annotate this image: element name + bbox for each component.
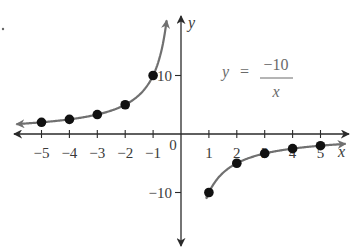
equation-equals: = <box>240 63 249 80</box>
hyperbola-graph: −5−4−3−2−1012345 10−10 x y y = −10 x <box>0 0 357 247</box>
equation-label: y = −10 x <box>220 56 293 100</box>
equation-denominator: x <box>271 83 279 100</box>
data-point <box>232 158 242 168</box>
x-tick-label: −5 <box>34 145 50 161</box>
y-tick-label: 10 <box>157 68 172 84</box>
stray-dot <box>2 28 4 30</box>
data-point <box>148 71 158 81</box>
equation-numerator: −10 <box>263 56 288 73</box>
x-axis-label: x <box>337 143 345 160</box>
x-tick-label: 1 <box>205 145 213 161</box>
x-tick-label: −4 <box>61 145 77 161</box>
equation-lhs: y <box>220 63 230 81</box>
data-point <box>65 115 75 125</box>
data-point <box>204 188 214 198</box>
x-tick-label: −1 <box>145 145 161 161</box>
x-tick-label: −3 <box>89 145 105 161</box>
data-point <box>316 141 326 151</box>
data-point <box>93 110 103 120</box>
axes <box>14 16 349 246</box>
curve-left-branch <box>16 20 166 124</box>
x-tick-label: −2 <box>117 145 133 161</box>
data-point <box>120 100 130 110</box>
x-tick-label: 0 <box>169 137 177 153</box>
data-point <box>288 144 298 154</box>
curve-right-branch <box>206 144 345 199</box>
y-tick-label: −10 <box>149 185 172 201</box>
data-point <box>37 118 47 128</box>
y-axis-label: y <box>186 14 196 32</box>
data-point <box>260 149 270 159</box>
